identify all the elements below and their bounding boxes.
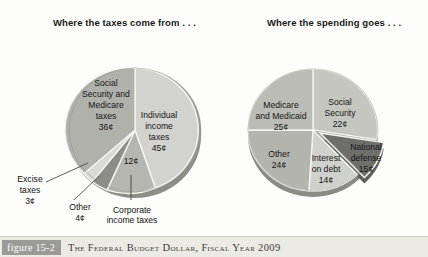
pie-label-excise-taxes: Excise taxes 3¢ bbox=[17, 163, 88, 206]
label-line: Medicare bbox=[88, 100, 124, 110]
label-value: 45¢ bbox=[152, 143, 167, 153]
label-line: Interest bbox=[312, 153, 341, 163]
label-value: 36¢ bbox=[99, 122, 114, 132]
label-line: Social bbox=[328, 97, 351, 107]
label-value: 15¢ bbox=[359, 164, 374, 174]
label-value: 14¢ bbox=[319, 175, 334, 185]
pie-svg-taxes: Individual income taxes 45¢ Social Secur… bbox=[0, 30, 214, 225]
label-value: 4¢ bbox=[75, 213, 85, 223]
label-line: defense bbox=[351, 153, 382, 163]
chart-title-spending: Where the spending goes . . . bbox=[267, 17, 401, 28]
figure-caption-bar: figure 15-2 The Federal Budget Dollar, F… bbox=[0, 236, 428, 257]
pie-chart-spending: Medicare and Medicaid 25¢ Social Securit… bbox=[214, 30, 428, 225]
label-line: Social bbox=[94, 78, 117, 88]
label-line: Other bbox=[268, 149, 290, 159]
label-value: 25¢ bbox=[274, 122, 289, 132]
label-line: taxes bbox=[149, 132, 170, 142]
figure-number-badge: figure 15-2 bbox=[2, 240, 61, 255]
label-line: Other bbox=[69, 202, 91, 212]
label-line: National bbox=[350, 142, 382, 152]
label-line: income taxes bbox=[107, 215, 158, 225]
pie-chart-taxes: Individual income taxes 45¢ Social Secur… bbox=[0, 30, 214, 225]
label-line: taxes bbox=[20, 185, 41, 195]
label-value: 3¢ bbox=[25, 196, 35, 206]
chart-title-taxes: Where the taxes come from . . . bbox=[53, 17, 196, 28]
label-line: Excise bbox=[17, 174, 43, 184]
label-line: income bbox=[145, 121, 173, 131]
label-value: 22¢ bbox=[333, 119, 348, 129]
label-value: 24¢ bbox=[272, 160, 287, 170]
leader-line-other bbox=[74, 176, 99, 200]
label-line: Security and bbox=[82, 89, 130, 99]
label-line: on debt bbox=[312, 164, 341, 174]
label-line: and Medicaid bbox=[255, 111, 306, 121]
label-line: Security bbox=[324, 108, 356, 118]
figure-caption-text: The Federal Budget Dollar, Fiscal Year 2… bbox=[68, 242, 281, 253]
label-line: Corporate bbox=[113, 205, 151, 215]
pie-svg-spending: Medicare and Medicaid 25¢ Social Securit… bbox=[214, 30, 428, 225]
label-line: Medicare bbox=[263, 100, 299, 110]
label-line: Individual bbox=[141, 110, 177, 120]
figure-container: Where the taxes come from . . . Where th… bbox=[0, 0, 428, 257]
label-line: taxes bbox=[96, 111, 117, 121]
label-value: 12¢ bbox=[124, 156, 139, 166]
